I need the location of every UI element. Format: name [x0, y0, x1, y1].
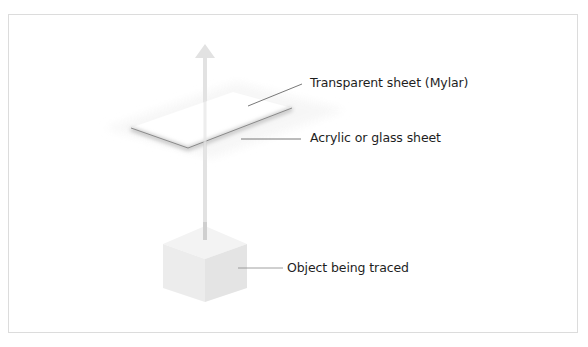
object-label: Object being traced — [287, 260, 409, 276]
acrylic-label: Acrylic or glass sheet — [310, 130, 441, 146]
object-cube — [163, 226, 247, 302]
tracing-setup-illustration — [0, 0, 588, 347]
mylar-label: Transparent sheet (Mylar) — [310, 75, 468, 91]
